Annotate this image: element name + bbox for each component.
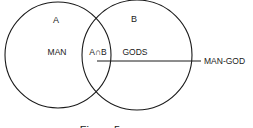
set-b-label: B [131,14,137,24]
gods-region-label: GODS [122,47,147,57]
intersection-label: A∩B [89,47,107,57]
figure-caption: Figure 5 [80,124,120,128]
set-a-label: A [53,15,59,25]
man-region-label: MAN [48,47,67,57]
venn-diagram: A B MAN A∩B GODS MAN-GOD Figure 5 [0,0,253,128]
man-god-label: MAN-GOD [204,56,245,66]
